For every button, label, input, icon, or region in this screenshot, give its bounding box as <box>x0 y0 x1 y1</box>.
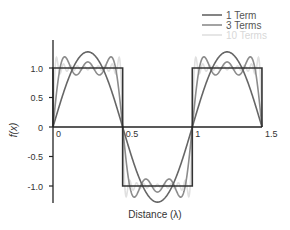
y-tick-label: -0.5 <box>27 152 43 162</box>
x-tick-label: 1.5 <box>265 129 278 139</box>
y-tick-label: 1.0 <box>30 64 43 74</box>
y-tick-label: -1.0 <box>27 182 43 192</box>
x-tick-label: 1 <box>195 129 200 139</box>
y-axis-ticks: 1.00.50-0.5-1.0 <box>27 64 53 192</box>
y-tick-label: 0.5 <box>30 93 43 103</box>
x-axis-label: Distance (λ) <box>128 209 181 220</box>
x-tick-label: 0.5 <box>126 129 139 139</box>
y-axis-label: f(x) <box>8 123 19 137</box>
y-tick-label: 0 <box>38 123 43 133</box>
fourier-series-chart: 1.00.50-0.5-1.0 00.511.5 f(x) Distance (… <box>0 0 290 230</box>
x-tick-label: 0 <box>56 129 61 139</box>
legend: 1 Term3 Terms10 Terms <box>202 10 267 41</box>
legend-label: 10 Terms <box>226 30 267 41</box>
x-axis-ticks: 00.511.5 <box>56 129 277 139</box>
